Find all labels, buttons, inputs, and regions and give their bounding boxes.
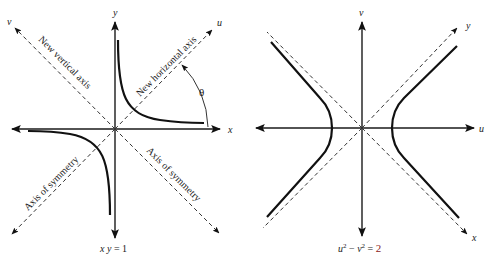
hyperbola-branch-right [392, 46, 459, 218]
new-horizontal-axis-label: New horizontal axis [134, 34, 199, 99]
right-panel: u v y x u2 − v2 = 2 [256, 7, 484, 254]
new-vertical-axis-label: New vertical axis [37, 34, 94, 91]
x-axis-dashed [362, 128, 467, 234]
caption-lhs: x y [99, 243, 112, 254]
y-axis-label: y [112, 7, 118, 18]
asymptote-lower-left [263, 128, 362, 228]
caption-eq: = [365, 243, 376, 254]
v-axis-label: v [359, 7, 364, 18]
hyperbola-branch-left [267, 42, 332, 217]
y-axis-dashed [362, 28, 457, 128]
caption-minus: − [347, 243, 358, 254]
theta-label: θ [199, 86, 204, 98]
axis-of-symmetry-label-right: Axis of symmetry [145, 145, 204, 204]
axis-of-symmetry-lower-left [12, 129, 115, 234]
u-axis-label: u [217, 17, 222, 28]
left-panel: x y u v θ New vertical axis New horizont… [7, 7, 233, 254]
hyperbola-rotation-diagram: x y u v θ New vertical axis New horizont… [0, 0, 489, 259]
hyperbola-branch-q3 [28, 131, 110, 215]
right-caption: u2 − v2 = 2 [338, 242, 381, 254]
v-axis-dashed [15, 28, 115, 129]
caption-eq: = 1 [111, 243, 127, 254]
axis-of-symmetry-lower-right [115, 129, 219, 233]
v-axis-label: v [7, 16, 12, 27]
u-axis-label: u [479, 123, 484, 134]
caption-rhs: 2 [376, 242, 382, 254]
u-axis-dashed [115, 30, 212, 129]
x-axis-label: x [227, 124, 233, 135]
x-axis-label: x [471, 232, 477, 243]
axis-of-symmetry-label-left: Axis of symmetry [22, 154, 81, 213]
asymptote-upper-left [267, 32, 362, 128]
y-axis-label: y [465, 20, 471, 31]
left-caption: x y = 1 [99, 243, 127, 254]
